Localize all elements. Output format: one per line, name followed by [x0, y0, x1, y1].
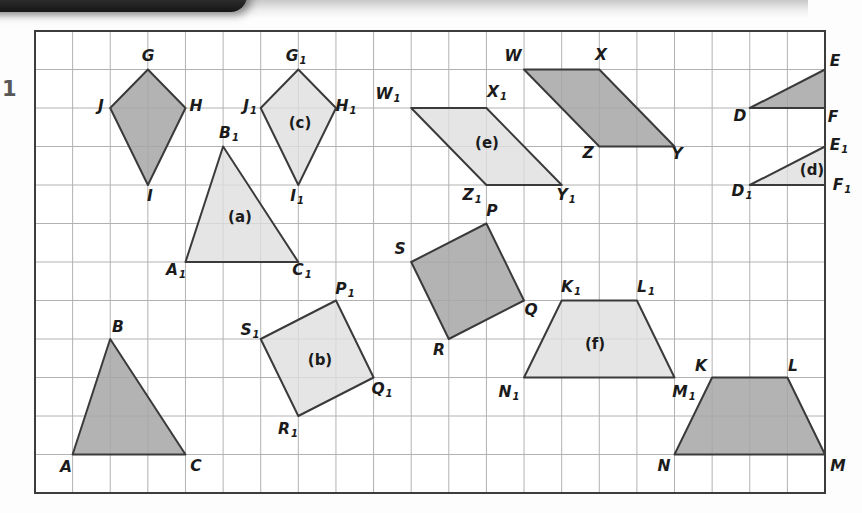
worksheet-figure: 1 GHIJG1H1I1J1(c)ABCA1B1C1(a)SPQRS1P1Q1R…: [0, 0, 862, 513]
geometry-grid-figure: [0, 0, 862, 513]
